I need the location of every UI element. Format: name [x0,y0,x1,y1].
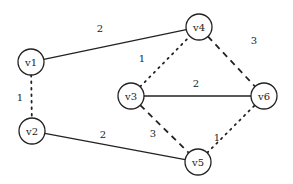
edge-weight-v3-v5: 3 [150,128,156,139]
edge-weight-v3-v6: 2 [193,78,199,89]
edge-weight-v3-v4: 1 [139,53,145,64]
node-label: v1 [24,57,37,68]
edge-v5-v6 [207,105,255,153]
edge-v4-v6 [208,36,255,86]
edge-v3-v5 [140,105,188,153]
node-v4: v4 [186,14,212,40]
node-v3: v3 [118,83,144,109]
node-v2: v2 [19,118,45,144]
node-v5: v5 [185,149,211,175]
edge-weight-v5-v6: 1 [214,132,220,143]
edge-v2-v5 [45,133,185,159]
node-label: v2 [25,126,38,137]
edge-v3-v4 [140,36,190,86]
node-label: v5 [191,157,204,168]
node-label: v6 [257,91,270,102]
node-v6: v6 [251,83,277,109]
edge-weight-v1-v4: 2 [97,23,103,34]
node-label: v4 [192,22,205,33]
edge-weight-v2-v5: 2 [100,129,106,140]
edge-v1-v4 [44,30,187,60]
edge-weight-v4-v6: 3 [251,35,257,46]
node-v1: v1 [18,49,44,75]
node-label: v3 [124,91,137,102]
edge-v1-v2 [31,75,32,118]
edge-weight-v1-v2: 1 [17,92,23,103]
weighted-graph-diagram: 21132321 v1v2v3v4v5v6 [0,0,293,184]
